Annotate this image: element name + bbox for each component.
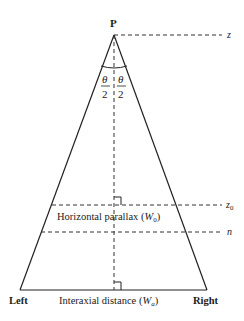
apex-label: P: [110, 17, 117, 29]
n-label: n: [227, 226, 232, 237]
svg-text:2: 2: [118, 88, 124, 100]
angle-label-right: θ 2: [117, 73, 126, 100]
z0-label: z0: [225, 199, 234, 212]
angle-label-left: θ 2: [101, 73, 110, 100]
svg-text:θ: θ: [102, 73, 108, 85]
left-edge: [20, 35, 114, 290]
z-label: z: [226, 29, 231, 40]
right-edge: [114, 35, 207, 290]
interaxial-distance-label: Interaxial distance (Wa): [59, 295, 159, 308]
right-angle-marker-base: [114, 282, 121, 290]
right-label: Right: [193, 295, 219, 306]
svg-text:2: 2: [102, 88, 108, 100]
horizontal-parallax-label: Horizontal parallax (W0): [57, 211, 161, 224]
left-label: Left: [9, 295, 28, 306]
right-angle-marker-z0: [114, 197, 121, 205]
svg-text:θ: θ: [118, 73, 124, 85]
stereo-geometry-diagram: P θ 2 θ 2 z z0 n Horizontal parallax (W0…: [0, 0, 244, 321]
